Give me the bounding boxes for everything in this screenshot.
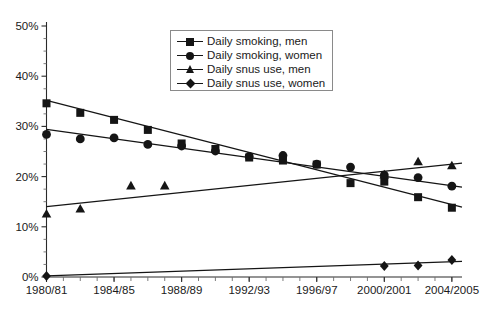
data-point-marker xyxy=(76,135,85,144)
data-point-marker xyxy=(448,204,456,212)
data-point-marker xyxy=(43,99,51,107)
y-tick-label: 10% xyxy=(15,221,38,233)
data-point-marker xyxy=(144,126,152,134)
y-tick-label: 40% xyxy=(15,70,38,82)
x-tick-label: 2004/2005 xyxy=(425,284,479,296)
y-tick-label: 20% xyxy=(15,171,38,183)
trend-line xyxy=(47,163,463,207)
data-point-marker xyxy=(76,109,84,117)
data-point-marker xyxy=(42,130,51,139)
data-point-marker xyxy=(42,209,52,218)
data-point-marker xyxy=(245,152,254,161)
legend-item-0[interactable]: Daily smoking, men xyxy=(171,34,332,48)
chart-container: 0%10%20%30%40%50% 1980/811984/851988/891… xyxy=(0,0,488,316)
x-tick-label: 1988/89 xyxy=(161,284,203,296)
x-tick-label: 1992/93 xyxy=(228,284,270,296)
legend-item-1[interactable]: Daily smoking, women xyxy=(171,48,332,62)
data-point-marker xyxy=(160,181,170,190)
legend-item-label: Daily snus use, men xyxy=(207,63,311,76)
data-point-marker xyxy=(126,181,136,190)
y-tick-label: 30% xyxy=(15,120,38,132)
data-point-marker xyxy=(143,140,152,149)
series-layer xyxy=(42,99,462,281)
triangle-marker-icon xyxy=(177,63,203,75)
data-point-marker xyxy=(414,173,423,182)
legend-item-label: Daily smoking, women xyxy=(207,49,322,62)
data-point-marker xyxy=(414,260,423,270)
x-axis: 1980/811984/851988/891992/931996/972000/… xyxy=(26,277,479,296)
data-point-marker xyxy=(279,151,288,160)
data-point-marker xyxy=(347,179,355,187)
data-point-marker xyxy=(447,182,456,191)
data-point-marker xyxy=(177,142,186,151)
data-point-marker xyxy=(312,160,321,169)
data-point-marker xyxy=(75,204,85,213)
data-point-marker xyxy=(110,116,118,124)
data-point-marker xyxy=(414,193,422,201)
data-point-marker xyxy=(413,157,423,166)
chart-legend: Daily smoking, menDaily smoking, womenDa… xyxy=(170,30,333,91)
data-point-marker xyxy=(110,134,119,143)
data-point-marker xyxy=(447,255,456,265)
circle-marker-icon xyxy=(177,49,203,61)
y-axis: 0%10%20%30%40%50% xyxy=(15,20,46,283)
diamond-marker-icon xyxy=(177,77,203,89)
data-point-marker xyxy=(42,271,51,281)
data-point-marker xyxy=(346,163,355,172)
legend-item-3[interactable]: Daily snus use, women xyxy=(171,76,332,90)
trend-line xyxy=(47,261,463,276)
y-tick-label: 0% xyxy=(22,271,39,283)
y-tick-label: 50% xyxy=(15,20,38,32)
data-point-marker xyxy=(380,261,389,271)
data-point-marker xyxy=(211,147,220,156)
trend-line xyxy=(47,100,463,207)
square-marker-icon xyxy=(177,35,203,47)
series-2 xyxy=(42,157,462,218)
x-tick-label: 1996/97 xyxy=(296,284,338,296)
x-tick-label: 1980/81 xyxy=(26,284,68,296)
legend-item-label: Daily snus use, women xyxy=(207,77,325,90)
legend-item-label: Daily smoking, men xyxy=(207,35,307,48)
trend-line xyxy=(47,129,463,187)
x-tick-label: 1984/85 xyxy=(93,284,135,296)
x-tick-label: 2000/2001 xyxy=(357,284,411,296)
legend-item-2[interactable]: Daily snus use, men xyxy=(171,62,332,76)
